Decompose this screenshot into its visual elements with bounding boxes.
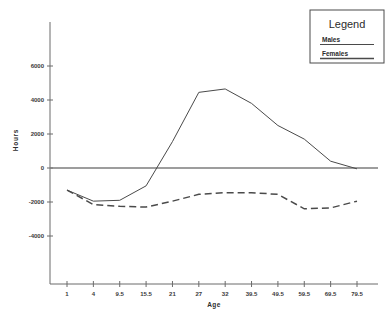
y-tick-label: -2000 xyxy=(29,199,45,205)
x-tick-label: 27 xyxy=(195,291,202,297)
x-tick-label: 59.5 xyxy=(298,291,310,297)
x-axis-ticks: 149.515.521273239.549.559.569.579.5 xyxy=(65,281,363,297)
x-tick-label: 1 xyxy=(65,291,69,297)
x-tick-label: 32 xyxy=(222,291,229,297)
y-tick-label: 2000 xyxy=(31,131,45,137)
series-group xyxy=(67,89,357,209)
x-tick-label: 49.5 xyxy=(272,291,284,297)
line-chart: 6000400020000-2000-4000 149.515.52127323… xyxy=(0,0,390,314)
y-axis-title: Hours xyxy=(12,129,19,151)
y-axis-title-group: Hours xyxy=(12,129,19,151)
y-tick-label: -4000 xyxy=(29,233,45,239)
chart-container: 6000400020000-2000-4000 149.515.52127323… xyxy=(0,0,390,314)
x-tick-label: 4 xyxy=(92,291,96,297)
series-line-males xyxy=(67,89,357,201)
y-tick-label: 4000 xyxy=(31,97,45,103)
x-tick-label: 21 xyxy=(169,291,176,297)
y-axis-ticks: 6000400020000-2000-4000 xyxy=(29,63,53,239)
x-tick-label: 9.5 xyxy=(116,291,125,297)
x-axis-title: Age xyxy=(207,301,220,309)
x-tick-label: 39.5 xyxy=(246,291,258,297)
x-tick-label: 69.5 xyxy=(325,291,337,297)
y-tick-label: 6000 xyxy=(31,63,45,69)
legend-entry-females-label: Females xyxy=(322,50,348,57)
legend-title: Legend xyxy=(329,18,366,30)
x-tick-label: 79.5 xyxy=(351,291,363,297)
legend: Legend Males Females xyxy=(310,10,384,63)
legend-entry-males-label: Males xyxy=(322,36,340,43)
series-line-females xyxy=(67,190,357,209)
y-tick-label: 0 xyxy=(41,165,45,171)
x-tick-label: 15.5 xyxy=(140,291,152,297)
